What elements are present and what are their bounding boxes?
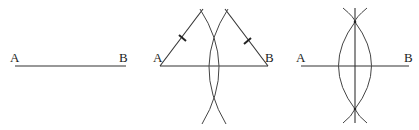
point-b-label: B xyxy=(265,50,274,65)
lower-intersection-point xyxy=(354,108,357,111)
perpendicular-bisector-diagram: A B A B A B xyxy=(0,0,419,130)
point-b-label: B xyxy=(119,50,128,65)
point-a-label: A xyxy=(10,50,20,65)
point-a-label: A xyxy=(296,50,306,65)
upper-intersection-point xyxy=(354,21,357,24)
panel-1-segment: A B xyxy=(10,50,128,66)
point-b-label: B xyxy=(404,50,413,65)
panel-3-bisector: A B xyxy=(296,8,413,123)
panel-2-arcs: A B xyxy=(153,9,274,124)
radius-from-b xyxy=(225,9,268,66)
point-a-label: A xyxy=(153,50,163,65)
